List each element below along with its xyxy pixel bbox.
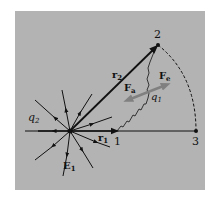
point-3-label: 3 [192,135,199,148]
charge-q2-dot [68,129,73,134]
point-2-dot [156,43,160,47]
figure-background [15,11,205,190]
point-2-label: 2 [154,28,161,41]
electric-field-work-diagram: q2 E1 r1 r2 Fe Fa q1 1 2 3 [0,0,214,202]
point-3-dot [194,129,198,133]
point-1-label: 1 [114,135,121,148]
